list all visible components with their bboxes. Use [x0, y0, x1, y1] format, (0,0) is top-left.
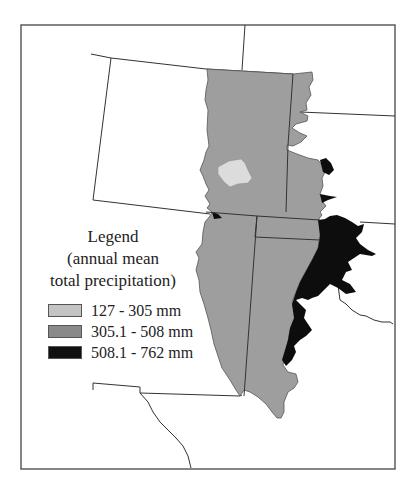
legend-title-line2: (annual mean	[28, 248, 198, 270]
legend-swatch-mid	[48, 325, 82, 338]
legend-swatch-high	[48, 346, 82, 359]
legend-items: 127 - 305 mm 305.1 - 508 mm 508.1 - 762 …	[48, 300, 198, 363]
legend-item-low: 127 - 305 mm	[48, 300, 198, 321]
legend-label-low: 127 - 305 mm	[91, 302, 181, 320]
legend-label-mid: 305.1 - 508 mm	[91, 323, 193, 341]
legend-title: Legend (annual mean total precipitation)	[28, 226, 198, 292]
legend-item-high: 508.1 - 762 mm	[48, 342, 198, 363]
legend-label-high: 508.1 - 762 mm	[91, 344, 193, 362]
legend: Legend (annual mean total precipitation)…	[28, 226, 198, 363]
legend-swatch-low	[48, 304, 82, 317]
legend-title-line1: Legend	[28, 226, 198, 248]
legend-title-line3: total precipitation)	[28, 270, 198, 292]
legend-item-mid: 305.1 - 508 mm	[48, 321, 198, 342]
